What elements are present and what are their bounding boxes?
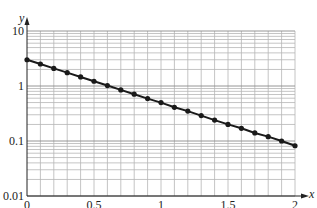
y-axis-arrow-icon (25, 17, 30, 25)
tick-labels: 00.511.520.010.1110 (3, 24, 298, 208)
data-point (105, 83, 110, 88)
x-axis-label: x (308, 187, 315, 201)
x-tick-label: 1 (158, 198, 164, 208)
data-point (279, 138, 284, 143)
y-tick-label: 0.01 (3, 189, 24, 203)
grid-minor (27, 31, 295, 196)
x-tick-label: 2 (292, 198, 298, 208)
data-point (266, 134, 271, 139)
y-tick-label: 10 (12, 24, 24, 38)
y-tick-label: 0.1 (9, 134, 24, 148)
y-axis-label: y (18, 11, 25, 25)
data-point (145, 96, 150, 101)
data-point (158, 100, 163, 105)
data-point (225, 122, 230, 127)
data-point (78, 74, 83, 79)
data-point (292, 143, 297, 148)
data-point (38, 61, 43, 66)
data-point (252, 130, 257, 135)
data-point (91, 79, 96, 84)
data-point (185, 108, 190, 113)
x-tick-label: 1.5 (221, 198, 236, 208)
y-tick-label: 1 (18, 79, 24, 93)
data-point (132, 92, 137, 97)
data-point (118, 87, 123, 92)
data-point (172, 105, 177, 110)
data-point (239, 126, 244, 131)
x-axis-arrow-icon (301, 194, 309, 199)
data-point (24, 57, 29, 62)
data-point (51, 66, 56, 71)
semilog-chart: 00.511.520.010.1110 x y (0, 0, 317, 208)
data-point (199, 113, 204, 118)
x-tick-label: 0 (24, 198, 30, 208)
data-point (212, 117, 217, 122)
data-point (65, 70, 70, 75)
x-tick-label: 0.5 (87, 198, 102, 208)
